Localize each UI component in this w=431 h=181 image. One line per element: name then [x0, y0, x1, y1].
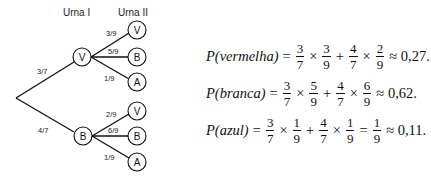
- svg-text:B: B: [134, 52, 141, 63]
- probability-tree: Urna I Urna II 3/7 4/7 3/9 5/9 1/9 2/9 6…: [0, 0, 200, 181]
- times-sign: ×: [350, 85, 358, 102]
- fraction: 37: [296, 42, 305, 71]
- prob-v-a: 1/9: [104, 74, 114, 83]
- node-urna2-b-b: B: [128, 127, 146, 145]
- times-sign: ×: [309, 48, 317, 65]
- formula-lhs: P(azul): [206, 122, 249, 139]
- svg-text:B: B: [134, 131, 141, 142]
- header-urna-1: Urna I: [63, 7, 90, 18]
- prob-v-b: 5/9: [108, 47, 118, 56]
- equals-sign: =: [282, 48, 290, 65]
- svg-text:A: A: [134, 157, 141, 168]
- formula-lhs: P(branca): [206, 85, 266, 102]
- node-urna2-v-v: V: [128, 21, 146, 39]
- formula-result: ≈ 0,11.: [386, 122, 426, 139]
- times-sign: ×: [363, 48, 371, 65]
- header-urna-2: Urna II: [118, 7, 148, 18]
- prob-root-v: 3/7: [37, 67, 47, 76]
- node-urna2-v-b: B: [128, 48, 146, 66]
- equals-sign: =: [270, 85, 278, 102]
- fraction: 39: [322, 42, 331, 71]
- probability-formulas: P(vermelha) = 37 × 39 + 47 × 29 ≈ 0,27. …: [206, 38, 430, 149]
- times-sign: ×: [296, 85, 304, 102]
- formula-lhs: P(vermelha): [206, 48, 278, 65]
- formula-vermelha: P(vermelha) = 37 × 39 + 47 × 29 ≈ 0,27.: [206, 38, 430, 75]
- fraction: 47: [319, 116, 328, 145]
- svg-text:V: V: [79, 52, 86, 63]
- prob-b-v: 2/9: [106, 110, 116, 119]
- node-urna2-b-v: V: [128, 102, 146, 120]
- prob-b-b: 6/9: [108, 126, 118, 135]
- formula-result: ≈ 0,62.: [376, 85, 417, 102]
- prob-v-v: 3/9: [106, 29, 116, 38]
- formula-branca: P(branca) = 37 × 59 + 47 × 69 ≈ 0,62.: [206, 75, 430, 112]
- fraction: 37: [266, 116, 275, 145]
- fraction: 47: [336, 79, 345, 108]
- fraction: 69: [363, 79, 372, 108]
- times-sign: ×: [333, 122, 341, 139]
- equals-sign: =: [253, 122, 261, 139]
- fraction: 19: [373, 116, 382, 145]
- node-urna1-b: B: [74, 127, 92, 145]
- fraction: 19: [346, 116, 355, 145]
- svg-text:A: A: [134, 77, 141, 88]
- plus-sign: +: [306, 122, 314, 139]
- fraction: 19: [293, 116, 302, 145]
- svg-text:B: B: [80, 131, 87, 142]
- fraction: 47: [349, 42, 358, 71]
- svg-text:V: V: [134, 106, 141, 117]
- node-urna2-b-a: A: [128, 153, 146, 171]
- fraction: 29: [376, 42, 385, 71]
- formula-azul: P(azul) = 37 × 19 + 47 × 19 = 19 ≈ 0,11.: [206, 112, 430, 149]
- node-urna2-v-a: A: [128, 73, 146, 91]
- fraction: 37: [283, 79, 292, 108]
- formula-result: ≈ 0,27.: [389, 48, 430, 65]
- prob-root-b: 4/7: [38, 126, 48, 135]
- node-urna1-v: V: [73, 48, 91, 66]
- times-sign: ×: [279, 122, 287, 139]
- plus-sign: +: [323, 85, 331, 102]
- equals-sign: =: [359, 122, 367, 139]
- prob-b-a: 1/9: [104, 153, 114, 162]
- plus-sign: +: [336, 48, 344, 65]
- fraction: 59: [309, 79, 318, 108]
- svg-text:V: V: [134, 25, 141, 36]
